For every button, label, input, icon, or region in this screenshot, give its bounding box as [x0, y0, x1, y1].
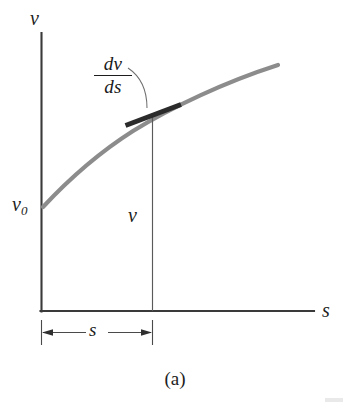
y-axis-label: v [30, 8, 39, 28]
scan-artifact [325, 398, 343, 402]
derivative-annotation: dv ds [90, 54, 136, 97]
dimension-arrow-right [141, 329, 152, 336]
v-initial-symbol: v [12, 193, 21, 215]
distance-dimension-label: s [89, 320, 96, 339]
velocity-vs-position-plot [0, 0, 350, 409]
v-initial-label: v0 [12, 194, 27, 217]
figure-caption: (a) [0, 368, 350, 390]
derivative-denominator: ds [90, 77, 136, 97]
derivative-numerator: dv [90, 54, 136, 74]
x-axis-label: s [322, 300, 330, 320]
v-at-s-label: v [128, 205, 137, 225]
dimension-line-s [42, 320, 153, 345]
tangent-segment [126, 105, 182, 126]
dimension-arrow-left [42, 329, 53, 336]
v-initial-subscript: 0 [21, 203, 28, 218]
figure-container: v s v0 v s dv ds (a) [0, 0, 350, 409]
velocity-curve [43, 65, 278, 207]
